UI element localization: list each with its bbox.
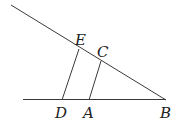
segment-ca bbox=[89, 61, 101, 100]
label-c: C bbox=[97, 43, 109, 61]
segment-ed bbox=[62, 49, 79, 100]
geometry-diagram: E C D A B bbox=[0, 0, 180, 131]
label-e: E bbox=[74, 31, 86, 49]
label-d: D bbox=[54, 104, 67, 122]
label-a: A bbox=[81, 104, 94, 122]
upper-line bbox=[11, 5, 166, 100]
label-b: B bbox=[159, 104, 171, 122]
